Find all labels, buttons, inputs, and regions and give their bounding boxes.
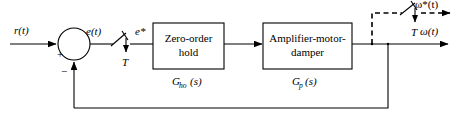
transfer-function-zoh-subscript: ho <box>179 81 187 90</box>
output-signal-label: ω(t) <box>420 25 438 38</box>
transfer-function-zoh-arg: (s) <box>190 75 202 88</box>
sampled-output-label: ω*(t) <box>415 0 438 11</box>
error-signal-label: e(t) <box>86 25 102 38</box>
sampler-right-period-label: T <box>411 26 418 38</box>
sampler-left <box>111 31 128 52</box>
input-signal-label: r(t) <box>14 24 29 37</box>
transfer-function-label-zoh: G ho (s) <box>172 75 202 90</box>
sampled-error-label: e* <box>135 25 146 37</box>
block-zero-order-hold-line2: hold <box>179 46 199 58</box>
block-amplifier-motor-damper-line1: Amplifier-motor- <box>269 32 346 44</box>
transfer-function-plant-subscript: p <box>298 81 303 90</box>
summing-junction-minus-sign: − <box>61 65 67 77</box>
transfer-function-label-plant: G p (s) <box>292 75 317 90</box>
block-zero-order-hold-line1: Zero-order <box>165 32 213 44</box>
block-diagram-canvas: r(t) + − e(t) T e* <box>0 0 456 123</box>
sampler-left-period-label: T <box>122 56 129 68</box>
summing-junction-plus-sign: + <box>57 48 63 60</box>
transfer-function-plant-arg: (s) <box>305 75 317 88</box>
block-amplifier-motor-damper-line2: damper <box>291 46 324 58</box>
dashed-sampling-branch <box>372 13 402 44</box>
